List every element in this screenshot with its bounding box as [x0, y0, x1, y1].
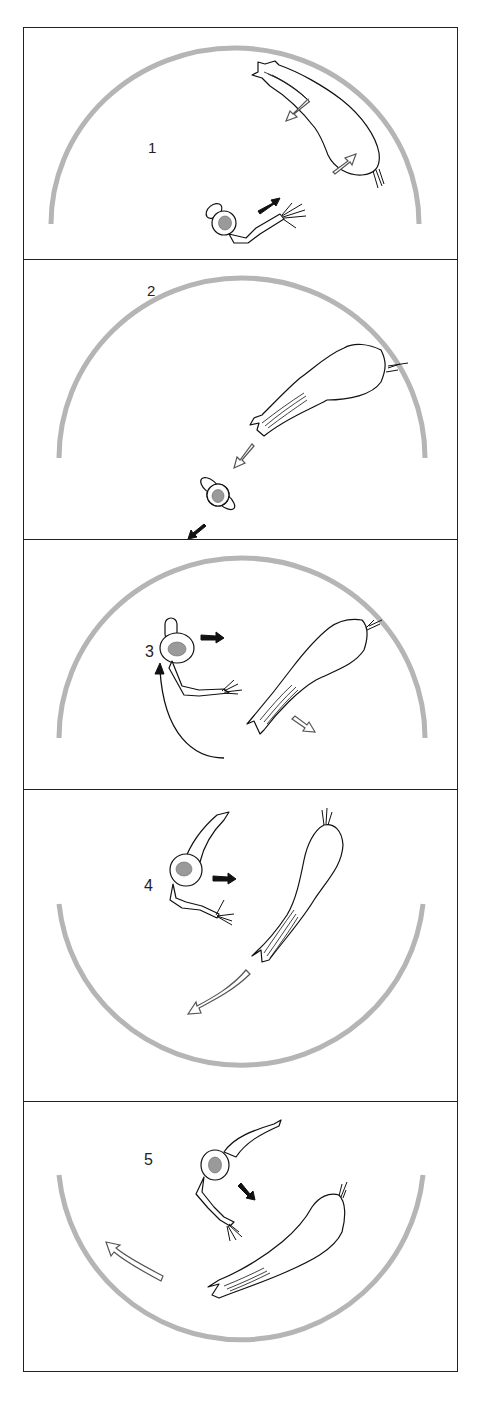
arrowhead-icon — [155, 663, 164, 674]
panel-4: 4 — [23, 789, 458, 1102]
curved-path-arrow — [160, 670, 224, 758]
step-label: 1 — [148, 140, 156, 155]
open-arrow-icon — [292, 716, 315, 732]
figure: 1 2 — [0, 0, 486, 1404]
solid-arrow-icon — [238, 1183, 255, 1200]
solid-arrow-icon — [258, 198, 280, 214]
arena-arc — [59, 558, 425, 738]
solid-arrow-icon — [188, 524, 206, 539]
open-arrow-icon — [234, 444, 254, 468]
prey — [196, 1120, 281, 1241]
predator — [252, 61, 384, 188]
prey — [203, 201, 306, 243]
step-label: 5 — [144, 1152, 153, 1168]
predator — [250, 344, 408, 436]
panel-1: 1 — [23, 27, 458, 260]
step-label: 2 — [147, 283, 155, 298]
panel-3-drawing — [24, 540, 457, 789]
predator — [208, 1182, 347, 1298]
prey — [160, 618, 242, 696]
predator — [247, 619, 382, 734]
predator — [252, 808, 343, 962]
curved-open-arrow-icon — [106, 1242, 163, 1281]
panel-1-drawing — [24, 28, 457, 259]
prey — [198, 474, 238, 513]
panel-3: 3 — [23, 539, 458, 790]
panel-5: 5 — [23, 1101, 458, 1372]
solid-arrow-icon — [201, 632, 224, 643]
panel-5-drawing — [24, 1102, 457, 1371]
prey — [170, 812, 234, 925]
panel-2-drawing — [24, 260, 457, 539]
panel-4-drawing — [24, 790, 457, 1101]
panel-2: 2 — [23, 259, 458, 540]
solid-arrow-icon — [213, 873, 236, 884]
step-label: 4 — [144, 878, 153, 894]
arena-arc — [59, 1175, 423, 1340]
step-label: 3 — [145, 644, 154, 660]
arena-arc — [59, 904, 423, 1065]
curved-open-arrow-icon — [188, 970, 250, 1014]
